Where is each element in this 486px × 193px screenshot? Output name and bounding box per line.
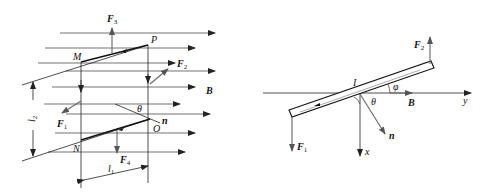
force-F1-arrow [62, 101, 81, 113]
angle-phi-label: φ [393, 81, 399, 92]
current-I-label: I [352, 77, 357, 88]
side-NO [81, 119, 150, 140]
force-F2-label-right: F2 [413, 39, 425, 52]
normal-n-label: n [162, 115, 168, 126]
dim-l1-label: l1 [108, 163, 115, 176]
right-figure: y B x I φ θ n F1 F2 [263, 37, 471, 157]
force-F1-label-right: F1 [296, 141, 308, 154]
point-N-label: N [72, 143, 81, 154]
force-F2-label: F2 [176, 58, 188, 71]
x-axis-label: x [364, 146, 370, 157]
force-F3-label: F3 [106, 13, 118, 26]
y-axis-label: y [462, 95, 468, 106]
field-B-label: B [205, 85, 213, 96]
diagram-canvas: F3 F2 F1 F4 n θ M P N O B l2 l1 y [0, 0, 486, 193]
conductor-rod [289, 61, 434, 117]
angle-theta-label: θ [137, 103, 142, 114]
force-F4-label: F4 [119, 154, 131, 167]
dim-l1-arrow [84, 166, 148, 180]
left-figure: F3 F2 F1 F4 n θ M P N O B l2 l1 [22, 13, 215, 188]
point-M-label: M [72, 51, 82, 62]
angle-theta-arc [354, 97, 360, 104]
force-F1-label: F1 [56, 118, 68, 131]
dim-l2-label: l2 [26, 115, 39, 122]
normal-n-label-right: n [389, 130, 395, 141]
point-O-label: O [153, 123, 160, 134]
field-B-label-right: B [407, 97, 415, 108]
angle-theta-label-right: θ [371, 96, 376, 107]
edge-left-top [22, 45, 148, 85]
side-MP [81, 45, 148, 62]
point-P-label: P [150, 34, 157, 45]
angle-phi-arc [388, 84, 390, 93]
